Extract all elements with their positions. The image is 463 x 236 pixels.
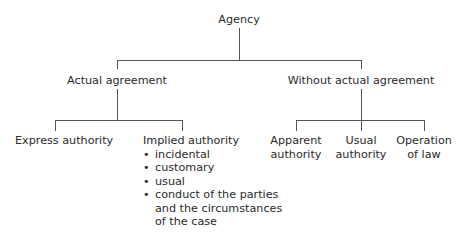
connector-implied-drop (182, 120, 183, 131)
connector-actual-stem (117, 89, 118, 120)
bullet-usual: usual (143, 175, 282, 189)
connector-apparent-drop (296, 120, 297, 131)
bullet-conduct: conduct of the parties and the circumsta… (143, 188, 282, 229)
bullet-conduct-line3: of the case (155, 215, 282, 229)
node-actual-agreement: Actual agreement (67, 74, 167, 88)
operation-line2: of law (396, 148, 452, 162)
usual-line2: authority (336, 148, 387, 162)
connector-actual-drop (117, 60, 118, 69)
bullet-conduct-line1: conduct of the parties (155, 188, 282, 202)
implied-authority-title: Implied authority (143, 134, 282, 148)
apparent-line1: Apparent (270, 134, 321, 148)
node-operation-of-law: Operation of law (396, 134, 452, 161)
bullet-incidental: incidental (143, 148, 282, 162)
node-agency: Agency (218, 13, 260, 27)
connector-usual-drop (361, 120, 362, 131)
connector-express-drop (55, 120, 56, 131)
operation-line1: Operation (396, 134, 452, 148)
connector-actual-bar (55, 120, 183, 121)
node-apparent-authority: Apparent authority (270, 134, 321, 161)
connector-without-stem (361, 89, 362, 120)
apparent-line2: authority (270, 148, 321, 162)
node-usual-authority: Usual authority (336, 134, 387, 161)
connector-without-drop (361, 60, 362, 69)
bullet-conduct-line2: and the circumstances (155, 202, 282, 216)
connector-root (239, 28, 240, 60)
connector-operation-drop (424, 120, 425, 131)
connector-level1-bar (117, 60, 362, 61)
implied-authority-list: incidental customary usual conduct of th… (143, 148, 282, 229)
node-implied-authority: Implied authority incidental customary u… (143, 134, 282, 229)
node-without-actual-agreement: Without actual agreement (288, 74, 435, 88)
usual-line1: Usual (336, 134, 387, 148)
node-express-authority: Express authority (15, 134, 113, 148)
bullet-customary: customary (143, 161, 282, 175)
